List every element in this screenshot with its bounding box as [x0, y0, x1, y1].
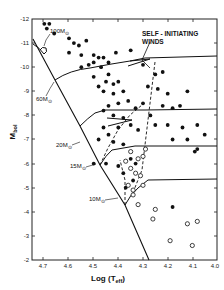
open-data-point: [134, 171, 138, 175]
x-axis-title-close: ): [122, 274, 125, 283]
y-tick-label: -9: [24, 88, 30, 94]
label-10m-pointer: [105, 198, 118, 200]
open-data-point: [195, 219, 199, 223]
filled-data-point: [116, 164, 120, 168]
filled-data-point: [112, 82, 116, 86]
filled-data-point: [77, 44, 81, 48]
x-axis-title: Log (Teff): [91, 274, 125, 284]
filled-data-point: [153, 123, 157, 127]
open-data-point: [141, 183, 145, 187]
filled-data-point: [67, 51, 71, 55]
y-tick-label: -7: [24, 136, 30, 142]
filled-data-point: [107, 73, 111, 77]
open-data-point: [136, 203, 140, 207]
filled-data-point: [171, 138, 175, 142]
filled-data-point: [181, 126, 185, 130]
filled-data-point: [45, 27, 49, 31]
filled-data-point: [195, 123, 199, 127]
filled-data-point: [112, 140, 116, 144]
x-axis: [43, 19, 193, 260]
filled-data-point: [112, 114, 116, 118]
filled-data-point: [121, 116, 125, 120]
filled-data-point: [102, 109, 106, 113]
label-winds: WINDS: [142, 38, 164, 45]
filled-data-point: [112, 92, 116, 96]
filled-data-point: [92, 162, 96, 166]
filled-data-point: [102, 89, 106, 93]
filled-data-point: [79, 65, 83, 69]
filled-data-point: [114, 51, 118, 55]
x-tick-label: 4.3: [139, 263, 148, 269]
y-tick-label: -12: [20, 16, 29, 22]
y-tick-label: -3: [24, 233, 30, 239]
open-data-point: [151, 217, 155, 221]
filled-data-point: [47, 22, 51, 26]
y-tick-label: -4: [24, 209, 30, 215]
filled-data-point: [129, 48, 133, 52]
filled-data-point: [92, 61, 96, 65]
filled-data-point: [141, 101, 145, 105]
filled-data-point: [153, 73, 157, 77]
y-tick-label: -6: [24, 161, 30, 167]
filled-data-point: [104, 80, 108, 84]
filled-data-point: [121, 171, 125, 175]
filled-data-point: [104, 162, 108, 166]
open-data-point: [129, 150, 133, 154]
y-tick-labels: -12 -11 -10 -9 -8 -7 -6 -5 -4 -3 -2: [20, 16, 29, 263]
open-data-point: [168, 239, 172, 243]
label-10m: 10M⊙: [89, 196, 105, 204]
label-15m: 15M⊙: [70, 163, 86, 171]
filled-data-point: [116, 80, 120, 84]
filled-data-point: [116, 126, 120, 130]
filled-data-point: [121, 89, 125, 93]
filled-data-point: [79, 53, 83, 57]
filled-data-point: [129, 123, 133, 127]
evolutionary-tracks: [33, 44, 217, 205]
filled-data-point: [116, 101, 120, 105]
open-data-point: [131, 188, 135, 192]
label-20m: 20M⊙: [56, 142, 72, 150]
y-tick-label: -10: [20, 64, 29, 70]
label-60m: 60M⊙: [36, 96, 52, 104]
filled-data-point: [97, 56, 101, 60]
open-data-point: [131, 193, 135, 197]
open-data-point: [126, 183, 130, 187]
filled-data-point: [186, 89, 190, 93]
filled-data-point: [171, 205, 175, 209]
label-20m-pointer: [72, 142, 80, 145]
filled-data-point: [186, 138, 190, 142]
open-data-point: [136, 157, 140, 161]
filled-data-point: [131, 179, 135, 183]
filled-data-point: [121, 142, 125, 146]
track-15m: [100, 146, 217, 165]
filled-data-point: [92, 75, 96, 79]
filled-data-point: [141, 63, 145, 67]
x-axis-title-main: Log (T: [91, 274, 116, 283]
open-data-point: [129, 166, 133, 170]
y-axis-title-sub: bol: [12, 124, 18, 133]
filled-data-point: [72, 41, 76, 45]
x-tick-label: 4.2: [164, 263, 173, 269]
y-tick-label: -8: [24, 112, 30, 118]
filled-data-point: [161, 70, 165, 74]
filled-data-point: [97, 85, 101, 89]
open-data-point: [124, 159, 128, 163]
filled-data-point: [203, 133, 207, 137]
filled-data-point: [92, 53, 96, 57]
open-data-point: [190, 243, 194, 247]
y-tick-label: -11: [21, 40, 30, 46]
x-tick-label: 4.0: [211, 263, 220, 269]
filled-data-point: [134, 162, 138, 166]
x-tick-label: 4.7: [39, 263, 48, 269]
filled-data-point: [42, 22, 46, 26]
filled-data-point: [171, 106, 175, 110]
filled-data-point: [102, 56, 106, 60]
track-60m: [55, 56, 217, 80]
filled-data-point: [107, 133, 111, 137]
label-60m-pointer: [46, 82, 54, 96]
filled-data-point: [193, 150, 197, 154]
filled-data-point: [52, 32, 56, 36]
x-tick-label: 4.6: [64, 263, 73, 269]
x-tick-label: 4.4: [114, 263, 123, 269]
x-tick-label: 4.1: [189, 263, 198, 269]
